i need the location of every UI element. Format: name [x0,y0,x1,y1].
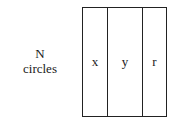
circles-label: circles [0,61,80,76]
column-r: r [142,8,166,116]
circle-table: x y r [82,7,167,117]
column-r-header: r [152,54,156,70]
column-x-header: x [92,54,99,70]
n-label: N [0,46,80,61]
column-x: x [83,8,107,116]
column-y: y [107,8,142,116]
column-y-header: y [122,54,129,70]
n-circles-label: N circles [0,46,80,76]
